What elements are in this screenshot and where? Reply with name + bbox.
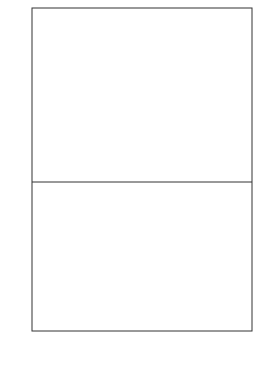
plot-frame (32, 8, 252, 331)
plot-border (32, 8, 252, 331)
chart (0, 0, 258, 376)
